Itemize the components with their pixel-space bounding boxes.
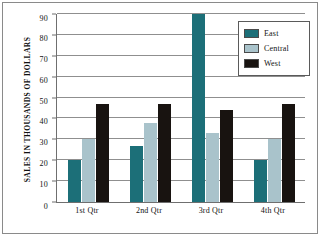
- bar-east-1[interactable]: [68, 160, 81, 202]
- bar-west-1[interactable]: [96, 104, 109, 202]
- bar-east-2[interactable]: [130, 146, 143, 202]
- y-tick-label-0: 0: [44, 202, 48, 203]
- bar-group: [68, 14, 109, 202]
- legend-swatch-east: [244, 29, 259, 38]
- y-tick-label-80: 80: [40, 34, 48, 35]
- y-tick-label-40: 40: [40, 118, 48, 119]
- bar-central-2[interactable]: [144, 123, 157, 202]
- y-tick-label-60: 60: [40, 76, 48, 77]
- legend-item-east[interactable]: East: [244, 26, 304, 41]
- y-tick-label-30: 30: [40, 139, 48, 140]
- bar-central-4[interactable]: [268, 139, 281, 202]
- bar-central-1[interactable]: [82, 139, 95, 202]
- x-category-label-3: 3rd Qtr: [199, 206, 224, 215]
- legend-swatch-central: [244, 44, 259, 53]
- y-axis-tick-labels: 0102030405060708090: [0, 14, 52, 203]
- y-tick-label-20: 20: [40, 160, 48, 161]
- legend-swatch-west: [244, 59, 259, 68]
- bar-group: [192, 14, 233, 202]
- legend-item-west[interactable]: West: [244, 56, 304, 71]
- legend-label-central: Central: [264, 44, 289, 53]
- y-tick-label-10: 10: [40, 181, 48, 182]
- bar-central-3[interactable]: [206, 133, 219, 202]
- x-axis-category-labels: 1st Qtr2nd Qtr3rd Qtr4th Qtr: [56, 206, 305, 222]
- legend-label-east: East: [264, 29, 279, 38]
- y-tick-label-50: 50: [40, 97, 48, 98]
- bar-west-4[interactable]: [282, 104, 295, 202]
- x-category-label-1: 1st Qtr: [75, 206, 98, 215]
- bar-chart-figure: SALES IN THOUSANDS OF DOLLARS 0102030405…: [0, 0, 322, 238]
- bar-east-3[interactable]: [192, 14, 205, 202]
- bar-west-3[interactable]: [220, 110, 233, 202]
- legend-label-west: West: [264, 59, 281, 68]
- bar-east-4[interactable]: [254, 160, 267, 202]
- y-tick-label-70: 70: [40, 55, 48, 56]
- chart-legend: EastCentralWest: [238, 21, 310, 76]
- y-tick-label-90: 90: [40, 14, 48, 15]
- x-category-label-2: 2nd Qtr: [136, 206, 162, 215]
- bar-group: [130, 14, 171, 202]
- legend-item-central[interactable]: Central: [244, 41, 304, 56]
- bar-west-2[interactable]: [158, 104, 171, 202]
- x-category-label-4: 4th Qtr: [261, 206, 285, 215]
